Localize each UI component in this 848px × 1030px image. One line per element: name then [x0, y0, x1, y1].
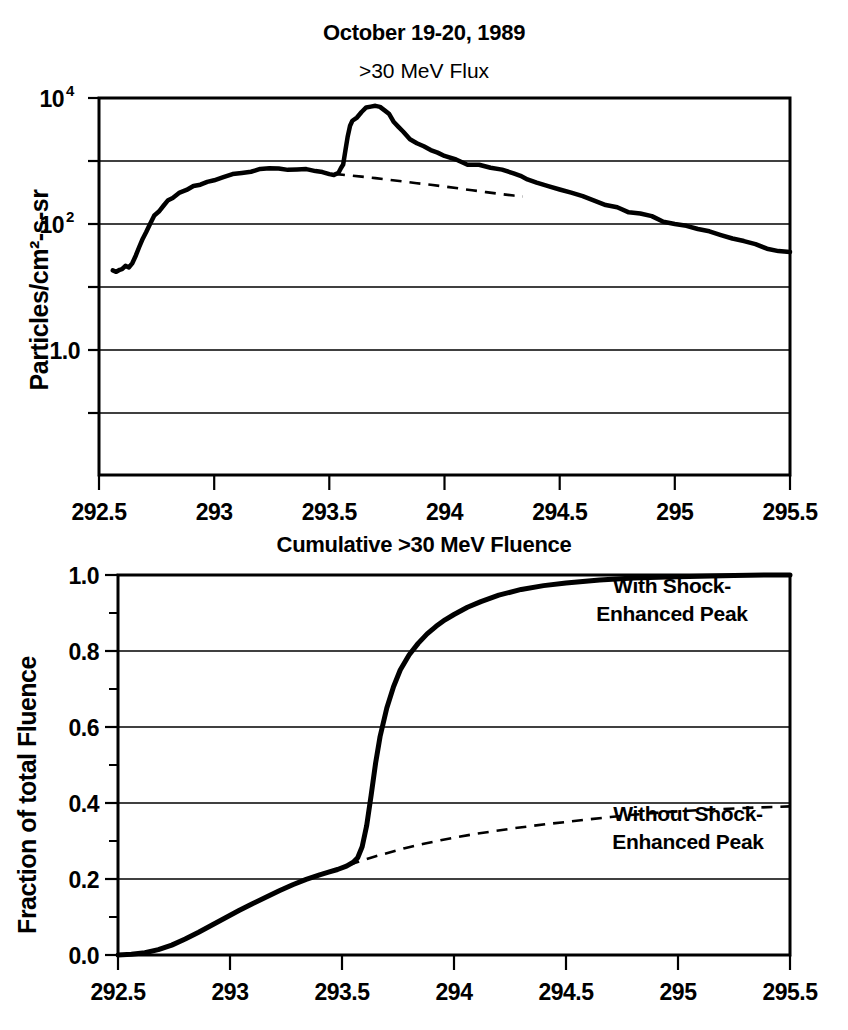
- flux-x-tick-label-0: 292.5: [71, 499, 127, 525]
- fluence-x-ticks: [118, 955, 790, 970]
- fluence-chart-title: Cumulative >30 MeV Fluence: [277, 532, 572, 557]
- flux-chart-subtitle: >30 MeV Flux: [359, 59, 490, 82]
- fluence-y-tick-label-5: 1.0: [69, 563, 99, 589]
- fluence-x-tick-label-5: 295: [660, 979, 698, 1005]
- flux-x-tick-label-1: 293: [196, 499, 233, 525]
- flux-without-shock-series: [334, 174, 523, 197]
- flux-chart-panel: October 19-20, 1989 >30 MeV Flux Particl…: [0, 0, 848, 530]
- fluence-y-tick-label-1: 0.2: [69, 867, 99, 893]
- flux-x-ticks: [99, 475, 790, 490]
- without-shock-label-line1: Without Shock-: [613, 802, 763, 825]
- flux-x-tick-labels: 292.5 293 293.5 294 294.5 295 295.5: [71, 499, 818, 525]
- fluence-annotation-with-shock: With Shock- Enhanced Peak: [596, 574, 748, 625]
- fluence-plot-frame: [118, 575, 790, 955]
- fluence-x-tick-label-4: 294.5: [538, 979, 594, 1005]
- flux-x-tick-label-6: 295.5: [762, 499, 818, 525]
- with-shock-label-line2: Enhanced Peak: [596, 602, 748, 625]
- fluence-x-tick-label-6: 295.5: [762, 979, 818, 1005]
- without-shock-label-line2: Enhanced Peak: [612, 830, 764, 853]
- flux-chart-title: October 19-20, 1989: [323, 20, 525, 45]
- flux-x-tick-label-3: 294: [426, 499, 464, 525]
- flux-y-tick-label-10e2-base: 10: [39, 212, 64, 238]
- flux-x-tick-label-2: 293.5: [302, 499, 358, 525]
- figure-root: October 19-20, 1989 >30 MeV Flux Particl…: [0, 0, 848, 1030]
- flux-gridlines: [99, 98, 790, 413]
- fluence-x-tick-label-3: 294: [436, 979, 474, 1005]
- fluence-x-tick-labels: 292.5 293 293.5 294 294.5 295 295.5: [90, 979, 818, 1005]
- fluence-y-tick-label-4: 0.8: [69, 639, 100, 665]
- fluence-y-tick-label-2: 0.4: [69, 791, 100, 817]
- fluence-chart-svg: Cumulative >30 MeV Fluence Fraction of t…: [0, 530, 848, 1030]
- fluence-with-shock-series: [118, 575, 790, 955]
- fluence-annotation-without-shock: Without Shock- Enhanced Peak: [612, 802, 764, 853]
- fluence-x-tick-label-1: 293: [212, 979, 249, 1005]
- flux-observed-series: [113, 106, 790, 272]
- fluence-x-tick-label-0: 292.5: [90, 979, 146, 1005]
- flux-y-tick-label-10e2-exponent: 2: [66, 208, 74, 225]
- flux-y-ticks: [88, 98, 99, 413]
- fluence-chart-panel: Cumulative >30 MeV Fluence Fraction of t…: [0, 530, 848, 1030]
- flux-x-tick-label-5: 295: [656, 499, 694, 525]
- flux-y-tick-label-10e4-base: 10: [39, 86, 64, 112]
- fluence-y-axis-title: Fraction of total Fluence: [13, 656, 41, 934]
- flux-x-tick-label-4: 294.5: [532, 499, 588, 525]
- with-shock-label-line1: With Shock-: [613, 574, 731, 597]
- flux-series-group: [113, 106, 790, 272]
- fluence-series-group: [118, 575, 790, 955]
- flux-chart-svg: October 19-20, 1989 >30 MeV Flux Particl…: [0, 0, 848, 530]
- fluence-y-tick-labels: 1.0 0.8 0.6 0.4 0.2 0.0: [69, 563, 100, 969]
- fluence-x-tick-label-2: 293.5: [314, 979, 370, 1005]
- fluence-y-tick-label-3: 0.6: [69, 715, 99, 741]
- flux-y-tick-label-10e4-exponent: 4: [66, 82, 75, 99]
- fluence-y-tick-label-0: 0.0: [69, 943, 99, 969]
- flux-y-tick-label-1p0: 1.0: [50, 338, 80, 364]
